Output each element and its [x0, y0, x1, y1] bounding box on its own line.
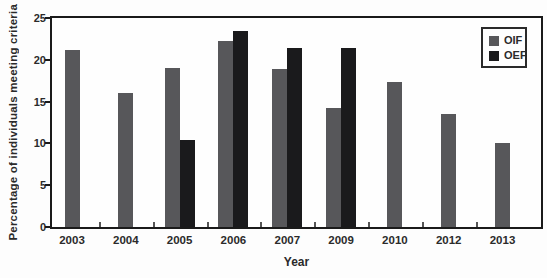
bar-2006-oif [218, 41, 233, 227]
y-tick-mark [45, 184, 50, 186]
legend-entry-oef: OEF [489, 48, 525, 63]
x-axis-tick [260, 222, 262, 227]
bar-2005-oif [165, 68, 180, 227]
x-tick-label-2009: 2009 [319, 234, 363, 246]
x-axis-tick [99, 222, 101, 227]
plot-inner [52, 18, 541, 227]
bar-2006-oef [233, 31, 248, 228]
legend-swatch-oif [489, 36, 499, 46]
y-tick-label-25: 25 [20, 11, 46, 25]
legend-label-oef: OEF [504, 50, 527, 61]
bar-2003-oif [65, 50, 80, 227]
x-axis-tick [476, 222, 478, 227]
x-tick-label-2004: 2004 [104, 234, 148, 246]
bar-2013-oif [495, 143, 510, 227]
x-axis-title: Year [52, 255, 541, 269]
bar-2012-oif [441, 114, 456, 227]
bar-2007-oif [272, 69, 287, 227]
y-tick-label-20: 20 [20, 53, 46, 67]
y-tick-mark [45, 226, 50, 228]
x-axis-tick [368, 222, 370, 227]
bar-2009-oif [326, 108, 341, 227]
y-axis-label: Percentage of individuals meeting criter… [7, 4, 19, 241]
legend-label-oif: OIF [504, 35, 522, 46]
bar-chart-figure: Percentage of individuals meeting criter… [0, 0, 547, 278]
legend: OIFOEF [481, 27, 527, 68]
bar-2004-oif [118, 93, 133, 227]
x-tick-label-2012: 2012 [427, 234, 471, 246]
y-tick-mark [45, 17, 50, 19]
bar-2010-oif [387, 82, 402, 227]
plot-area [50, 16, 543, 229]
x-axis-tick [207, 222, 209, 227]
y-tick-label-10: 10 [20, 136, 46, 150]
x-axis-tick [314, 222, 316, 227]
x-axis-tick [153, 222, 155, 227]
y-tick-mark [45, 101, 50, 103]
legend-entry-oif: OIF [489, 33, 525, 48]
y-tick-mark [45, 59, 50, 61]
bar-2007-oef [287, 48, 302, 227]
y-tick-label-15: 15 [20, 95, 46, 109]
y-tick-label-0: 0 [20, 220, 46, 234]
y-tick-label-5: 5 [20, 178, 46, 192]
bar-2009-oef [341, 48, 356, 227]
x-axis-tick [422, 222, 424, 227]
legend-swatch-oef [489, 51, 499, 61]
x-tick-label-2005: 2005 [158, 234, 202, 246]
x-tick-label-2007: 2007 [265, 234, 309, 246]
x-tick-label-2003: 2003 [50, 234, 94, 246]
x-tick-label-2013: 2013 [481, 234, 525, 246]
y-tick-mark [45, 142, 50, 144]
bar-2005-oef [180, 140, 195, 227]
x-tick-label-2006: 2006 [211, 234, 255, 246]
y-axis-label-wrap: Percentage of individuals meeting criter… [2, 14, 24, 230]
x-tick-label-2010: 2010 [373, 234, 417, 246]
